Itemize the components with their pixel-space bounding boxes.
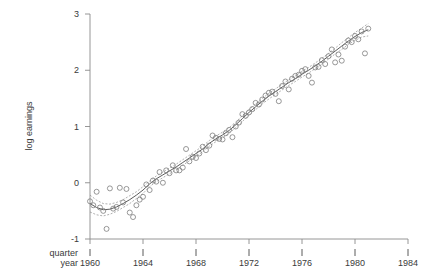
data-point: [306, 73, 311, 78]
data-point: [177, 168, 182, 173]
confidence-bands: [90, 24, 368, 216]
data-point: [283, 79, 288, 84]
data-point: [187, 159, 192, 164]
data-point: [164, 168, 169, 173]
axes-group: [90, 14, 408, 239]
x-tick-label: 1960: [80, 258, 100, 268]
data-point: [266, 90, 271, 95]
data-point: [362, 51, 367, 56]
data-point: [107, 186, 112, 191]
axis-titles: log earnings quarter year: [24, 101, 78, 268]
data-point: [276, 99, 281, 104]
data-point: [101, 208, 106, 213]
confidence-band-curve: [90, 36, 368, 216]
data-point: [134, 203, 139, 208]
y-tick-label: 3: [74, 9, 79, 19]
data-point: [147, 188, 152, 193]
chart-figure: -10123 1960196419681972197619801984 log …: [0, 0, 443, 277]
data-point: [184, 147, 189, 152]
data-point: [141, 194, 146, 199]
y-tick-label: 2: [74, 65, 79, 75]
data-point: [160, 180, 165, 185]
x-tick-label: 1964: [133, 258, 153, 268]
x-tick-label: 1976: [292, 258, 312, 268]
data-point: [286, 87, 291, 92]
data-point: [154, 179, 159, 184]
data-point: [203, 148, 208, 153]
data-point: [131, 215, 136, 220]
y-tick-label: 1: [74, 122, 79, 132]
x-tick-label: 1972: [239, 258, 259, 268]
x-axis-label-year: year: [60, 258, 78, 268]
x-tick-label: 1984: [398, 258, 418, 268]
fit-curve: [90, 30, 368, 210]
data-point: [333, 60, 338, 65]
data-point: [104, 226, 109, 231]
x-axis-ticks: 1960196419681972197619801984: [80, 239, 418, 268]
y-axis-label: log earnings: [24, 101, 34, 151]
data-point: [336, 52, 341, 57]
data-point: [339, 58, 344, 63]
data-point: [124, 186, 129, 191]
y-axis-ticks: -10123: [71, 9, 90, 244]
smooth-fit-line: [90, 30, 368, 210]
data-point: [230, 135, 235, 140]
x-tick-label: 1980: [345, 258, 365, 268]
x-tick-label: 1968: [186, 258, 206, 268]
y-tick-label: 0: [74, 178, 79, 188]
data-point: [194, 156, 199, 161]
data-point: [137, 197, 142, 202]
data-point: [144, 182, 149, 187]
data-point: [127, 210, 132, 215]
data-point: [220, 137, 225, 142]
data-point: [316, 64, 321, 69]
data-point: [117, 185, 122, 190]
chart-canvas: -10123 1960196419681972197619801984 log …: [0, 0, 443, 277]
data-point: [94, 189, 99, 194]
x-axis-label-quarter: quarter: [49, 248, 78, 258]
y-tick-label: -1: [71, 234, 79, 244]
data-point: [309, 80, 314, 85]
confidence-band-curve: [90, 24, 368, 205]
data-point: [323, 62, 328, 67]
data-point: [366, 26, 371, 31]
data-point: [180, 165, 185, 170]
